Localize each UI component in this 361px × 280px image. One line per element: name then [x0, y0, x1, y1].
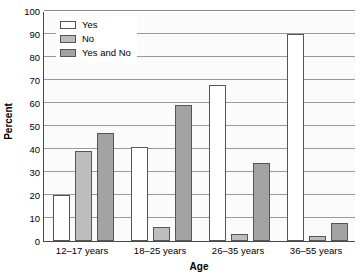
- bar: [75, 151, 92, 241]
- bar: [253, 163, 270, 241]
- x-axis-tick-label: 18–25 years: [121, 245, 199, 257]
- legend-label: No: [82, 34, 94, 44]
- y-axis-tick-label: 80: [14, 53, 40, 63]
- bar: [97, 133, 114, 241]
- x-axis-tick-label: 26–35 years: [199, 245, 277, 257]
- y-axis-tick-label: 50: [14, 122, 40, 132]
- gridline: [44, 10, 355, 11]
- bar: [331, 223, 348, 241]
- x-axis-tick-label: 36–55 years: [277, 245, 355, 257]
- bar: [175, 105, 192, 241]
- y-axis-tick-label: 100: [14, 7, 40, 17]
- x-axis-tick-label: 12–17 years: [43, 245, 121, 257]
- bar: [287, 34, 304, 241]
- bar-chart: Percent 0102030405060708090100 YesNoYes …: [0, 0, 361, 280]
- plot-area: YesNoYes and No: [43, 12, 355, 242]
- bar: [231, 234, 248, 241]
- y-axis-tick-label: 60: [14, 99, 40, 109]
- legend-item: No: [60, 32, 131, 45]
- bar: [53, 195, 70, 241]
- legend-label: Yes and No: [82, 48, 131, 58]
- bar: [153, 227, 170, 241]
- y-axis-tick-label: 10: [14, 214, 40, 224]
- y-axis-tick-label: 90: [14, 30, 40, 40]
- y-axis-tick-label: 70: [14, 76, 40, 86]
- legend-item: Yes: [60, 18, 131, 31]
- y-axis-tick-label: 0: [14, 237, 40, 247]
- y-axis-tick-labels: 0102030405060708090100: [14, 12, 40, 242]
- x-axis-title: Age: [43, 261, 355, 272]
- legend-swatch-icon: [60, 35, 76, 43]
- y-axis-tick-label: 40: [14, 145, 40, 155]
- legend-swatch-icon: [60, 21, 76, 29]
- legend-label: Yes: [82, 20, 98, 30]
- legend-swatch-icon: [60, 49, 76, 57]
- y-axis-title-text: Percent: [3, 103, 14, 140]
- bar: [131, 147, 148, 241]
- bar: [209, 85, 226, 241]
- x-axis-tick-labels: 12–17 years18–25 years26–35 years36–55 y…: [43, 245, 355, 259]
- y-axis-tick-label: 20: [14, 191, 40, 201]
- legend-item: Yes and No: [60, 46, 131, 59]
- y-axis-tick-label: 30: [14, 168, 40, 178]
- bar: [309, 236, 326, 241]
- legend: YesNoYes and No: [56, 16, 137, 63]
